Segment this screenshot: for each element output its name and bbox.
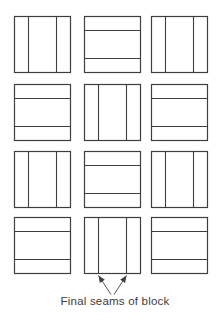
block-outline bbox=[15, 152, 71, 208]
quilt-block-r4c3-horizontal-seams bbox=[152, 218, 208, 274]
caption-final-seams: Final seams of block bbox=[13, 295, 217, 308]
block-outline bbox=[15, 17, 71, 73]
quilt-block-r1c3-vertical-seams bbox=[152, 17, 208, 73]
block-outline bbox=[15, 218, 71, 274]
quilt-block-r3c1-vertical-seams bbox=[15, 152, 71, 208]
seam-annotation-arrows bbox=[99, 276, 127, 295]
block-outline bbox=[15, 85, 71, 141]
blocks-layer bbox=[15, 17, 208, 274]
block-outline bbox=[152, 218, 208, 274]
quilt-block-r1c2-horizontal-seams bbox=[85, 17, 141, 73]
quilt-block-r2c2-vertical-seams bbox=[85, 85, 141, 141]
quilt-block-r2c1-horizontal-seams bbox=[15, 85, 71, 141]
block-outline bbox=[85, 218, 141, 274]
seam-arrow-right bbox=[114, 276, 127, 295]
block-outline bbox=[85, 152, 141, 208]
quilt-block-r2c3-horizontal-seams bbox=[152, 85, 208, 141]
seam-arrow-left bbox=[99, 276, 112, 295]
quilt-block-r1c1-vertical-seams bbox=[15, 17, 71, 73]
block-outline bbox=[152, 17, 208, 73]
quilt-block-r3c3-vertical-seams bbox=[152, 152, 208, 208]
block-outline bbox=[85, 17, 141, 73]
quilt-block-r4c2-vertical-seams bbox=[85, 218, 141, 274]
block-outline bbox=[152, 152, 208, 208]
block-outline bbox=[152, 85, 208, 141]
quilt-diagram-canvas: Final seams of block bbox=[0, 0, 217, 324]
block-outline bbox=[85, 85, 141, 141]
quilt-block-r3c2-horizontal-seams bbox=[85, 152, 141, 208]
quilt-block-r4c1-horizontal-seams bbox=[15, 218, 71, 274]
quilt-piecing-diagram bbox=[0, 0, 217, 324]
